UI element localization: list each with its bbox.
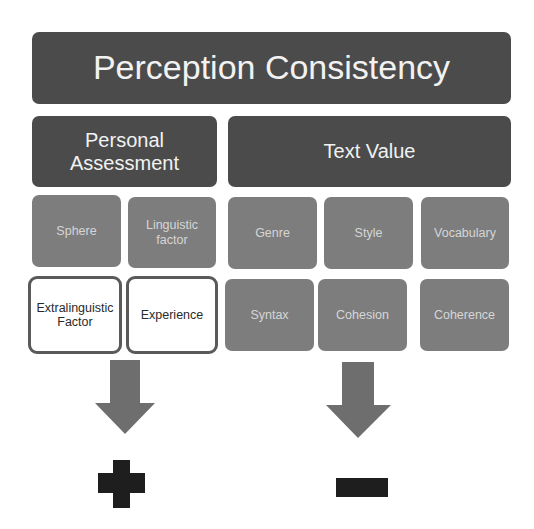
minus-icon xyxy=(0,0,534,529)
